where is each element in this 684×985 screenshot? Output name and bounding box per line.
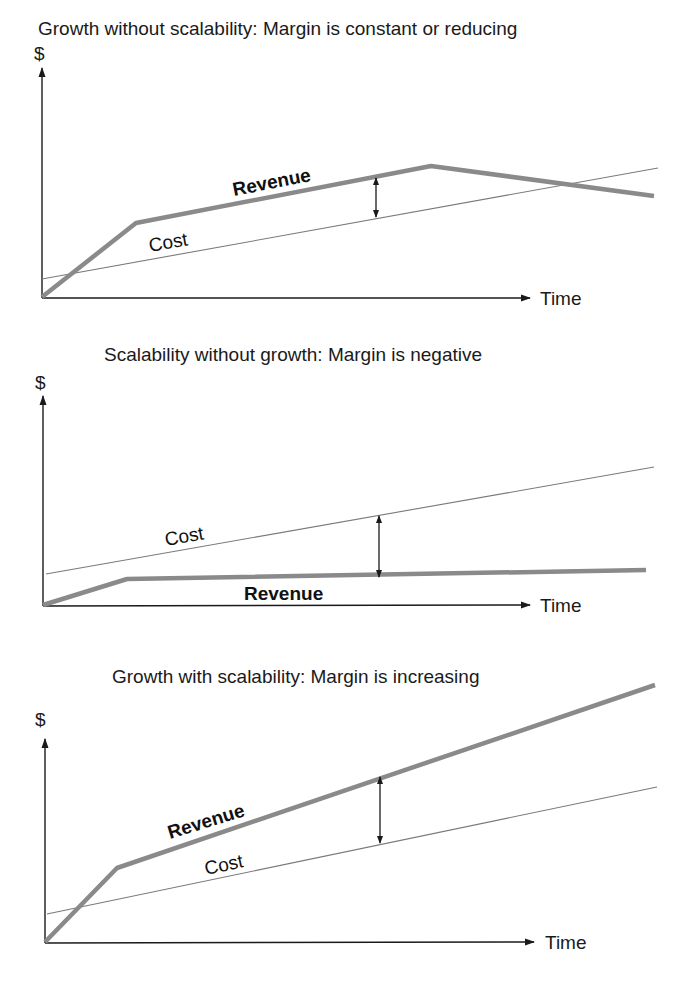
cost-line: [46, 467, 654, 574]
x-axis: [43, 605, 530, 606]
cost-label: Cost: [202, 850, 245, 879]
revenue-label: Revenue: [244, 583, 323, 604]
x-axis-label: Time: [540, 595, 582, 616]
x-axis-label: Time: [540, 288, 582, 309]
x-axis: [45, 942, 534, 943]
revenue-line: [43, 570, 646, 605]
cost-label: Cost: [163, 522, 206, 550]
panel-growth-without-scalability: Growth without scalability: Margin is co…: [0, 0, 684, 320]
panel-title: Scalability without growth: Margin is ne…: [104, 344, 482, 366]
x-axis-label: Time: [545, 932, 587, 953]
cost-line: [47, 787, 657, 914]
cost-label: Cost: [147, 228, 190, 256]
y-axis-label: $: [35, 372, 46, 393]
panel-title: Growth with scalability: Margin is incre…: [112, 666, 479, 688]
y-axis-label: $: [34, 43, 45, 64]
revenue-label: Revenue: [165, 800, 247, 843]
revenue-line: [45, 685, 655, 942]
revenue-line: [42, 166, 654, 297]
y-axis-label: $: [35, 709, 46, 730]
line-chart: $ Time Revenue Cost: [0, 0, 684, 320]
